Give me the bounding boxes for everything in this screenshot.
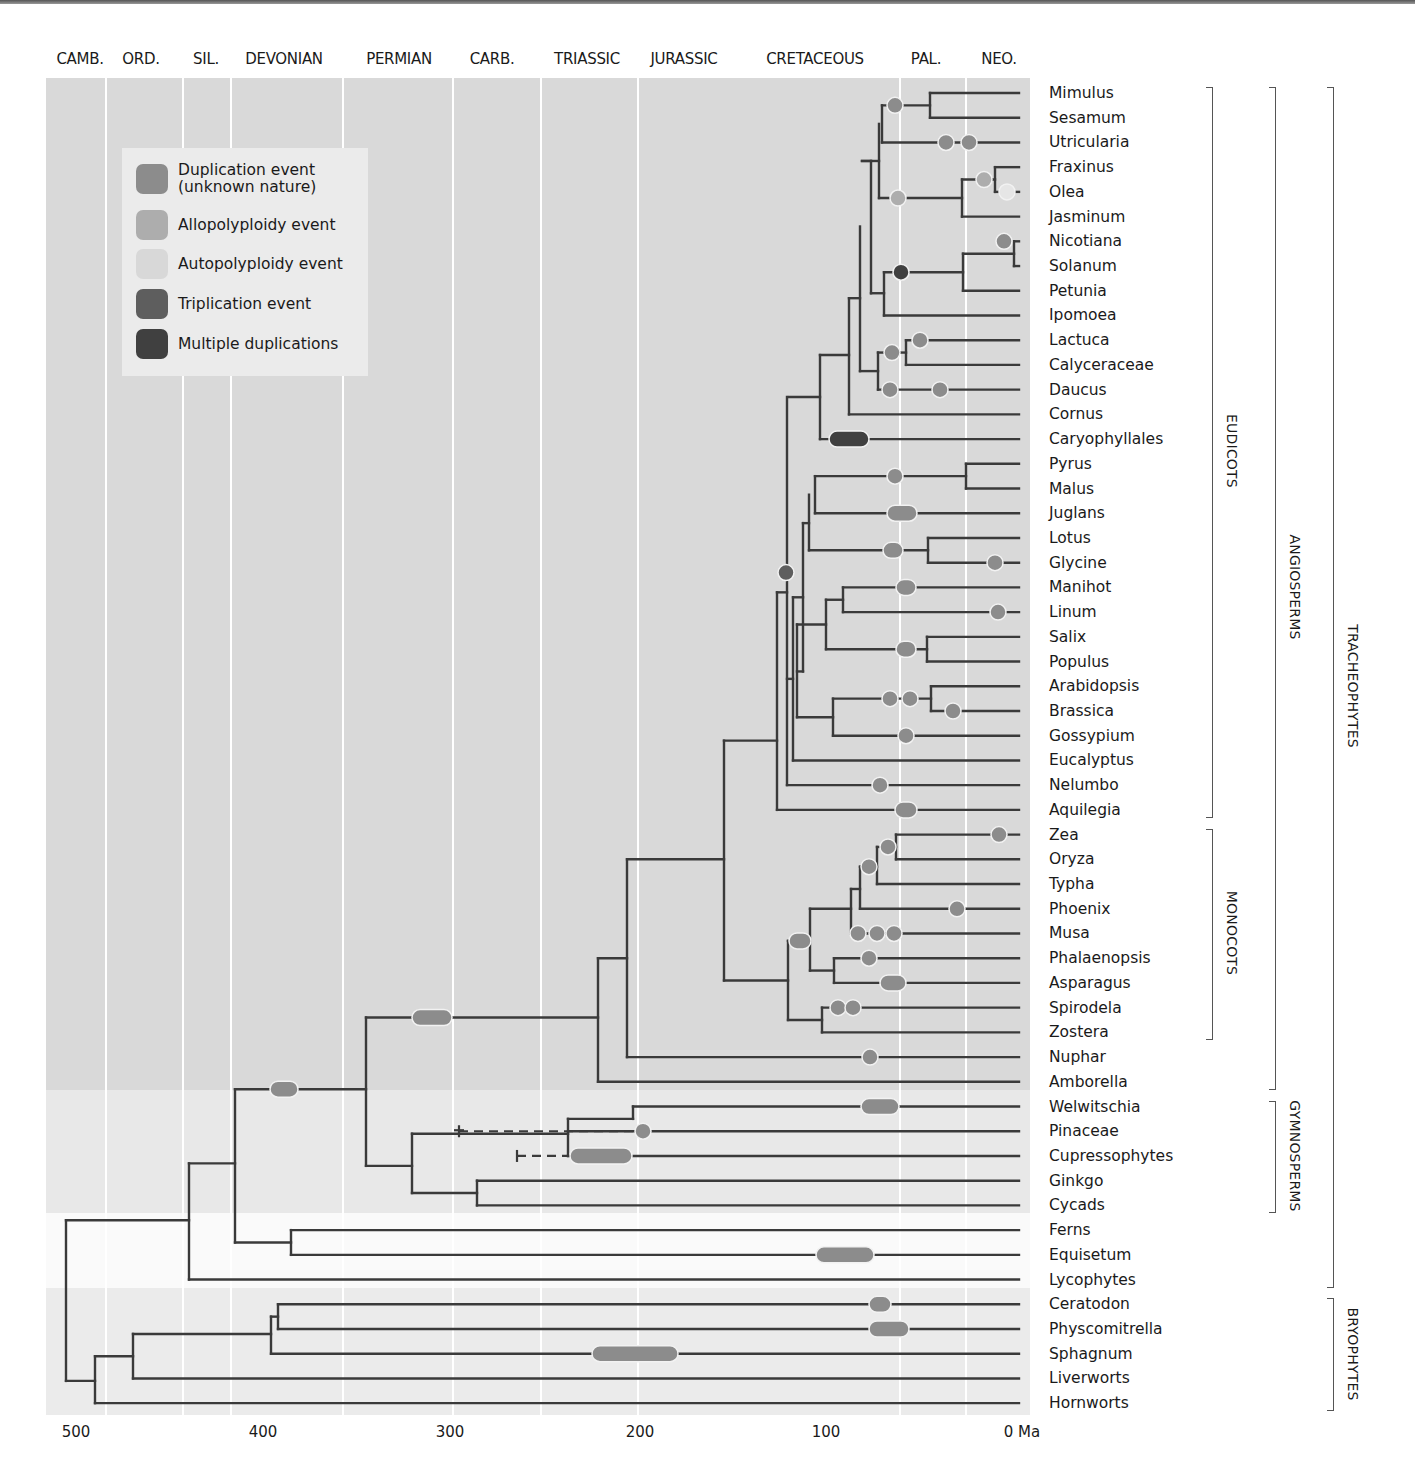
legend-label: Multiple duplications xyxy=(178,336,338,353)
clade-bracket xyxy=(1206,829,1213,1041)
taxon-label: Olea xyxy=(1049,183,1085,201)
legend-label-sub: (unknown nature) xyxy=(178,179,316,196)
taxon-label: Phoenix xyxy=(1049,900,1111,918)
taxon-label: Zea xyxy=(1049,826,1079,844)
duplication-event-marker xyxy=(872,777,888,793)
duplication-event-marker xyxy=(887,505,917,521)
duplication-event-marker xyxy=(890,190,906,206)
taxon-label: Manihot xyxy=(1049,578,1111,596)
taxon-label: Brassica xyxy=(1049,702,1114,720)
duplication-event-marker xyxy=(882,382,898,398)
clade-label: ANGIOSPERMS xyxy=(1287,535,1303,640)
taxon-label: Cornus xyxy=(1049,405,1103,423)
axis-tick-label: 300 xyxy=(436,1423,465,1441)
taxon-label: Ginkgo xyxy=(1049,1172,1103,1190)
taxon-label: Ferns xyxy=(1049,1221,1091,1239)
legend-label: Duplication event xyxy=(178,162,316,179)
duplication-event-marker xyxy=(987,555,1003,571)
clade-label: EUDICOTS xyxy=(1224,415,1240,489)
legend-item-autopolyploidy: Autopolyploidy event xyxy=(136,249,343,279)
duplication-event-marker xyxy=(830,1000,846,1016)
taxon-label: Lactuca xyxy=(1049,331,1110,349)
clade-label: TRACHEOPHYTES xyxy=(1345,624,1361,748)
duplication-event-marker xyxy=(886,925,902,941)
duplication-event-marker xyxy=(869,1321,909,1337)
duplication-event-marker xyxy=(887,468,903,484)
triplication-swatch-icon xyxy=(136,289,168,319)
duplication-event-marker xyxy=(996,233,1012,249)
taxon-label: Ceratodon xyxy=(1049,1295,1130,1313)
taxon-label: Liverworts xyxy=(1049,1369,1130,1387)
duplication-event-marker xyxy=(861,950,877,966)
taxon-label: Hornworts xyxy=(1049,1394,1129,1412)
duplication-event-marker xyxy=(887,97,903,113)
taxon-label: Fraxinus xyxy=(1049,158,1114,176)
legend-item-duplication: Duplication event (unknown nature) xyxy=(136,162,316,196)
taxon-label: Arabidopsis xyxy=(1049,677,1139,695)
legend-item-triplication: Triplication event xyxy=(136,289,311,319)
duplication-event-marker xyxy=(635,1123,651,1139)
duplication-event-marker xyxy=(938,134,954,150)
taxon-label: Pyrus xyxy=(1049,455,1092,473)
duplication-event-marker xyxy=(570,1148,632,1164)
duplication-event-marker xyxy=(898,728,914,744)
taxon-label: Juglans xyxy=(1049,504,1105,522)
taxon-label: Pinaceae xyxy=(1049,1122,1119,1140)
taxon-label: Daucus xyxy=(1049,381,1107,399)
duplication-event-marker xyxy=(895,802,917,818)
duplication-swatch-icon xyxy=(136,164,168,194)
allopolyploidy-swatch-icon xyxy=(136,210,168,240)
taxon-label: Caryophyllales xyxy=(1049,430,1163,448)
duplication-event-marker xyxy=(999,184,1015,200)
clade-bracket xyxy=(1269,87,1276,1090)
duplication-event-marker xyxy=(893,264,909,280)
duplication-event-marker xyxy=(883,542,903,558)
taxon-label: Solanum xyxy=(1049,257,1117,275)
duplication-event-marker xyxy=(902,691,918,707)
duplication-event-marker xyxy=(861,1099,899,1115)
duplication-event-marker xyxy=(896,641,916,657)
duplication-event-marker xyxy=(945,703,961,719)
taxon-label: Nelumbo xyxy=(1049,776,1119,794)
duplication-event-marker xyxy=(976,172,992,188)
taxon-label: Phalaenopsis xyxy=(1049,949,1151,967)
clade-label: BRYOPHYTES xyxy=(1345,1307,1361,1400)
taxon-label: Musa xyxy=(1049,924,1090,942)
taxon-label: Populus xyxy=(1049,653,1109,671)
legend-label: Triplication event xyxy=(178,296,311,313)
duplication-event-marker xyxy=(880,839,896,855)
duplication-event-marker xyxy=(949,901,965,917)
clade-bracket xyxy=(1206,87,1213,818)
axis-tick-label: 500 xyxy=(62,1423,91,1441)
taxon-label: Amborella xyxy=(1049,1073,1128,1091)
taxon-label: Aquilegia xyxy=(1049,801,1121,819)
legend-label: Autopolyploidy event xyxy=(178,256,343,273)
taxon-label: Malus xyxy=(1049,480,1094,498)
taxon-label: Eucalyptus xyxy=(1049,751,1134,769)
duplication-event-marker xyxy=(869,1296,891,1312)
duplication-event-marker xyxy=(270,1081,298,1097)
taxon-label: Linum xyxy=(1049,603,1097,621)
taxon-label: Glycine xyxy=(1049,554,1107,572)
duplication-event-marker xyxy=(778,565,794,581)
duplication-event-marker xyxy=(412,1010,452,1026)
taxon-label: Cupressophytes xyxy=(1049,1147,1173,1165)
duplication-event-marker xyxy=(884,345,900,361)
taxon-label: Jasminum xyxy=(1049,208,1125,226)
taxon-label: Lotus xyxy=(1049,529,1091,547)
duplication-event-marker xyxy=(912,332,928,348)
duplication-event-marker xyxy=(845,1000,861,1016)
axis-tick-label: 100 xyxy=(812,1423,841,1441)
clade-label: MONOCOTS xyxy=(1224,891,1240,975)
taxon-label: Utricularia xyxy=(1049,133,1129,151)
taxon-label: Oryza xyxy=(1049,850,1094,868)
axis-tick-label: 400 xyxy=(249,1423,278,1441)
taxon-label: Cycads xyxy=(1049,1196,1105,1214)
duplication-event-marker xyxy=(862,1049,878,1065)
duplication-event-marker xyxy=(861,859,877,875)
clade-bracket xyxy=(1269,1101,1276,1214)
duplication-event-marker xyxy=(882,691,898,707)
duplication-event-marker xyxy=(932,382,948,398)
autopolyploidy-swatch-icon xyxy=(136,249,168,279)
taxon-label: Welwitschia xyxy=(1049,1098,1141,1116)
